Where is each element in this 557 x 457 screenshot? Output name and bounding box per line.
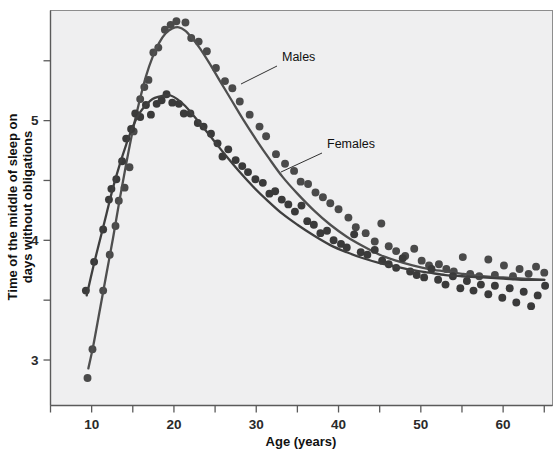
- series-label-females: Females: [327, 137, 375, 151]
- data-point: [323, 227, 331, 235]
- data-point: [272, 150, 280, 158]
- data-point: [385, 242, 393, 250]
- data-point: [271, 187, 279, 195]
- x-axis-tick-label: 60: [496, 417, 511, 432]
- x-axis-tick-label: 10: [84, 417, 99, 432]
- data-point: [362, 229, 370, 237]
- data-point: [377, 220, 385, 228]
- data-point: [540, 269, 548, 277]
- data-point: [392, 247, 400, 255]
- data-point: [527, 302, 535, 310]
- data-point: [297, 178, 305, 186]
- data-point: [534, 291, 542, 299]
- data-point: [326, 199, 334, 207]
- data-point: [418, 257, 426, 265]
- data-point: [371, 246, 379, 254]
- data-point: [344, 214, 352, 222]
- data-point: [350, 230, 358, 238]
- data-point: [442, 281, 450, 289]
- data-point: [420, 273, 428, 281]
- data-point: [291, 208, 299, 216]
- data-point: [484, 256, 492, 264]
- data-point: [312, 188, 320, 196]
- data-point: [477, 281, 485, 289]
- data-point: [330, 236, 338, 244]
- figure-root: 345 102030405060 MalesFemales Time of th…: [0, 0, 557, 457]
- x-axis-tick-label: 30: [249, 417, 264, 432]
- data-point: [500, 262, 508, 270]
- data-point: [251, 175, 259, 183]
- data-point: [281, 160, 289, 168]
- data-point: [310, 221, 318, 229]
- data-point: [256, 123, 264, 131]
- data-point: [399, 254, 407, 262]
- data-point: [168, 99, 176, 107]
- x-axis-tick-label: 40: [331, 417, 346, 432]
- data-point: [506, 284, 514, 292]
- data-point: [435, 260, 443, 268]
- data-point: [182, 19, 190, 27]
- y-axis-tick-label: 3: [31, 353, 39, 368]
- data-point: [516, 265, 524, 273]
- x-axis-tick-label: 20: [166, 417, 181, 432]
- data-point: [410, 245, 418, 253]
- data-point: [298, 202, 306, 210]
- y-axis-title-line-2: days without obligations: [20, 131, 35, 283]
- data-point: [491, 282, 499, 290]
- data-point: [541, 282, 549, 290]
- data-point: [532, 263, 540, 271]
- data-point: [319, 193, 327, 201]
- data-point: [290, 167, 298, 175]
- data-point: [284, 200, 292, 208]
- data-point: [172, 17, 180, 25]
- data-point: [352, 223, 360, 231]
- data-point: [459, 253, 467, 261]
- data-point: [335, 205, 343, 213]
- data-point: [246, 111, 254, 119]
- data-point: [434, 276, 442, 284]
- data-point: [84, 374, 92, 382]
- data-point: [456, 284, 464, 292]
- y-axis-tick-label: 5: [31, 113, 39, 128]
- data-point: [224, 145, 232, 153]
- series-label-males: Males: [282, 50, 315, 64]
- data-point: [147, 111, 155, 119]
- data-point: [363, 251, 371, 259]
- data-point: [304, 180, 312, 188]
- data-point: [470, 287, 478, 295]
- data-point: [512, 299, 520, 307]
- data-point: [236, 98, 244, 106]
- x-axis-title: Age (years): [266, 434, 337, 449]
- sleep-midpoint-scatter-chart: 345 102030405060 MalesFemales Time of th…: [0, 0, 557, 457]
- data-point: [244, 168, 252, 176]
- data-point: [278, 196, 286, 204]
- data-point: [520, 288, 528, 296]
- x-axis-tick-label: 50: [413, 417, 428, 432]
- y-axis-title: Time of the middle of sleep on days with…: [5, 114, 35, 301]
- data-point: [498, 294, 506, 302]
- data-point: [371, 238, 379, 246]
- data-point: [463, 277, 471, 285]
- data-point: [262, 132, 270, 140]
- data-point: [259, 179, 267, 187]
- data-point: [228, 84, 236, 92]
- data-point: [525, 270, 533, 278]
- y-axis-title-line-1: Time of the middle of sleep on: [5, 114, 20, 301]
- data-point: [484, 290, 492, 298]
- data-point: [238, 162, 246, 170]
